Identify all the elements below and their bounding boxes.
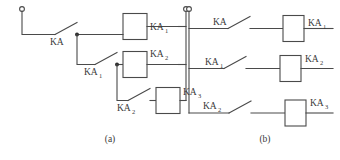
a-sw-ka1-blade — [95, 53, 117, 65]
a-sw-ka1-label-base: KA — [84, 67, 98, 77]
panel-a-caption: (a) — [105, 134, 116, 145]
b-sw-ka1-label-sub: 1 — [220, 62, 223, 69]
a-coil-ka2-box — [123, 52, 147, 78]
circuit-diagram-svg: KA KA 1 KA 2 KA 1 KA 2 KA 3 — [0, 0, 340, 160]
b-coil-ka2-label-sub: 2 — [320, 59, 323, 66]
a-coil-ka1-label-base: KA — [150, 22, 164, 32]
b-coil-ka2-label: KA 2 — [305, 54, 323, 66]
a-sw-ka2-label: KA 2 — [117, 103, 135, 115]
b-sw-ka2-label-sub: 2 — [218, 106, 221, 113]
b-sw-ka-label: KA — [213, 17, 227, 27]
a-sw-ka1-label: KA 1 — [84, 67, 102, 79]
circuit-figure: KA KA 1 KA 2 KA 1 KA 2 KA 3 — [0, 0, 340, 160]
b-coil-ka3-box — [285, 100, 306, 126]
b-sw-ka1-label-base: KA — [205, 57, 219, 67]
b-sw-ka2-label-base: KA — [203, 101, 217, 111]
b-terminal-left-circle — [187, 7, 192, 12]
a-coil-ka1-box — [123, 14, 147, 40]
a-coil-ka1-label-sub: 1 — [165, 27, 168, 34]
a-sw-ka1-label-sub: 1 — [99, 72, 102, 79]
b-sw-ka1-label: KA 1 — [205, 57, 223, 69]
b-coil-ka2-box — [280, 56, 301, 82]
a-sw-ka2-blade — [128, 89, 150, 101]
b-coil-ka1-label-sub: 1 — [323, 23, 326, 30]
b-coil-ka3-label-base: KA — [310, 98, 324, 108]
b-coil-ka2-label-base: KA — [305, 54, 319, 64]
a-wire-left-supply — [22, 11, 55, 34]
b-sw-ka-label-base: KA — [213, 17, 227, 27]
b-sw-ka2-label: KA 2 — [203, 101, 221, 113]
a-sw-ka2-label-base: KA — [117, 103, 131, 113]
a-coil-ka2-label: KA 2 — [150, 49, 168, 61]
a-coil-ka3-label-sub: 3 — [198, 92, 201, 99]
panel-b-caption: (b) — [259, 134, 270, 145]
b-coil-ka1-box — [283, 16, 304, 42]
panel-a: KA KA 1 KA 2 KA 1 KA 2 KA 3 — [20, 7, 202, 145]
b-coil-ka3-label-sub: 3 — [325, 103, 328, 110]
a-sw-ka-blade — [55, 23, 77, 35]
b-sw-ka-blade — [228, 17, 250, 29]
a-wire-junction1-drop — [77, 35, 95, 65]
a-sw-ka-label-base: KA — [50, 37, 64, 47]
b-coil-ka3-label: KA 3 — [310, 98, 328, 110]
a-sw-ka-label: KA — [50, 37, 64, 47]
a-coil-ka3-label-base: KA — [183, 87, 197, 97]
a-coil-ka1-label: KA 1 — [150, 22, 168, 34]
b-sw-ka1-blade — [224, 57, 246, 69]
b-sw-ka2-blade — [229, 101, 251, 113]
b-coil-ka1-label-base: KA — [308, 18, 322, 28]
a-coil-ka2-label-sub: 2 — [165, 54, 168, 61]
panel-b: KA KA 1 KA 2 KA 1 KA 2 KA 3 — [187, 7, 333, 145]
a-coil-ka3-box — [156, 88, 180, 114]
a-sw-ka2-label-sub: 2 — [132, 108, 135, 115]
a-terminal-left-circle — [20, 7, 25, 12]
a-coil-ka2-label-base: KA — [150, 49, 164, 59]
